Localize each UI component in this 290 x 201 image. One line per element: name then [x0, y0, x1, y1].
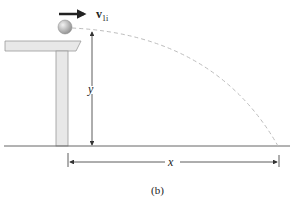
projectile-diagram: v1i y x (b): [0, 0, 290, 201]
range-label: x: [167, 155, 174, 169]
figure-caption: (b): [151, 184, 164, 197]
height-label: y: [87, 82, 94, 96]
table: [5, 41, 81, 146]
trajectory-path: [72, 28, 278, 146]
velocity-label: v1i: [96, 7, 109, 23]
table-top: [5, 41, 81, 51]
ball: [58, 20, 72, 34]
table-leg: [56, 51, 68, 146]
